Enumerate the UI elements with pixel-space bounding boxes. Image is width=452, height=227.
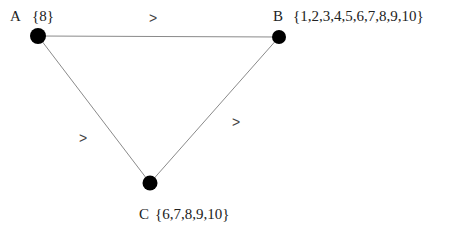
- node-b: [272, 30, 286, 44]
- edge-a-c: [38, 36, 150, 183]
- graph-diagram: A {8} B {1,2,3,4,5,6,7,8,9,10} C {6,7,8,…: [0, 0, 452, 227]
- edge-b-c: [150, 37, 279, 183]
- node-c: [143, 176, 158, 191]
- node-b-set: {1,2,3,4,5,6,7,8,9,10}: [293, 8, 424, 24]
- node-b-name: B: [273, 8, 283, 24]
- node-c-set: {6,7,8,9,10}: [155, 206, 229, 222]
- edge-b-c-relation: >: [232, 114, 240, 130]
- node-a: [30, 28, 46, 44]
- edge-a-c-relation: >: [79, 130, 87, 146]
- node-a-name: A: [10, 8, 21, 24]
- node-a-set: {8}: [32, 8, 54, 24]
- edge-a-b-relation: >: [149, 10, 157, 26]
- edge-a-b: [38, 36, 279, 37]
- node-c-name: C: [139, 206, 149, 222]
